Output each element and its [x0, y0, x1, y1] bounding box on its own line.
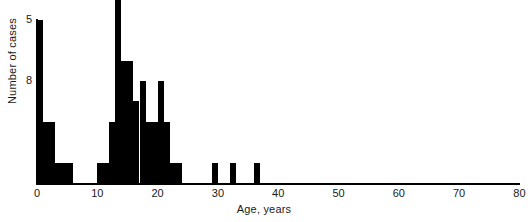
histogram-bar	[176, 163, 182, 183]
histogram-bar	[230, 163, 236, 183]
x-tick-label: 0	[22, 187, 52, 199]
y-axis-label: Number of cases	[6, 1, 18, 121]
x-tick-label: 30	[203, 187, 233, 199]
x-axis-label: Age, years	[0, 203, 528, 215]
x-tick-label: 70	[444, 187, 474, 199]
x-tick-label: 20	[143, 187, 173, 199]
x-tick-label: 50	[324, 187, 354, 199]
histogram-bar	[254, 163, 260, 183]
x-tick-label: 40	[263, 187, 293, 199]
x-tick-label: 80	[504, 187, 528, 199]
x-tick-label: 10	[82, 187, 112, 199]
histogram-bar	[67, 163, 73, 183]
x-tick-label: 60	[384, 187, 414, 199]
histogram-figure: 85 01020304050607080 Number of cases Age…	[0, 0, 528, 222]
plot-area: 85 01020304050607080	[0, 0, 528, 222]
histogram-bar	[212, 163, 218, 183]
